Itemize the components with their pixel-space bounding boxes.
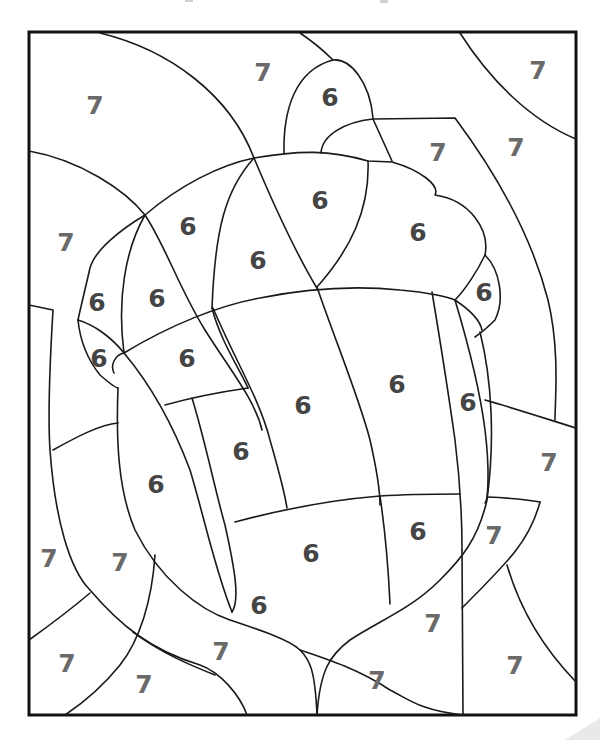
region-number-acorn-body: 6 [302,539,319,568]
region-number-background: 7 [424,609,441,638]
acorn-band-edge [165,388,248,405]
acorn-cap-rim [124,288,455,353]
acorn-color-by-number-sheet: 7767777666666666666676676776777777 [0,0,600,740]
region-number-background: 7 [429,138,446,167]
region-number-background: 7 [529,56,546,85]
page-curl-shadow [565,718,600,740]
region-number-acorn-body: 6 [250,591,267,620]
outline-line [373,119,392,161]
acorn-body-division [432,292,462,550]
acorn-cap-division [122,215,145,353]
acorn-body-outline [117,388,317,715]
region-number-background: 7 [86,91,103,120]
region-number-background: 7 [212,637,229,666]
outline-paths [29,33,576,715]
outline-arc [460,33,576,139]
region-number-acorn-cap: 6 [249,246,266,275]
region-number-background: 7 [540,448,557,477]
acorn-cap-curl [113,353,124,373]
region-number-background: 7 [111,548,128,577]
region-number-background: 7 [57,228,74,257]
outline-arc [29,151,262,430]
region-number-acorn-body: 6 [147,470,164,499]
acorn-body-division [213,308,287,508]
coloring-page: 7767777666666666666676676776777777 [0,0,600,740]
region-number-acorn-cap: 6 [409,218,426,247]
outline-line [53,423,118,450]
region-number-acorn-body: 6 [232,437,249,466]
region-number-acorn-cap: 6 [88,288,105,317]
outline-line [485,400,576,428]
acorn-cap-division [212,158,254,308]
region-number-acorn-cap: 6 [90,344,107,373]
outline-arc [100,33,318,290]
acorn-cap-division [317,161,368,287]
region-number-acorn-body: 6 [459,388,476,417]
outline-arc [462,502,540,608]
region-number-background: 7 [485,521,502,550]
header-text-fragment [380,0,388,3]
region-number-background: 7 [254,58,271,87]
outline-line [462,550,463,715]
region-number-acorn-cap: 6 [475,278,492,307]
region-number-acorn-cap: 6 [178,344,195,373]
region-number-acorn-stem: 6 [321,83,338,112]
outline-arc [29,593,90,640]
acorn-body-seam [487,497,540,502]
region-number-background: 7 [135,670,152,699]
region-number-background: 7 [40,544,57,573]
region-number-acorn-cap: 6 [179,212,196,241]
header-text-fragment [185,0,193,2]
region-number-acorn-body: 6 [294,391,311,420]
outline-line [300,33,333,60]
acorn-body-division [380,496,390,604]
region-number-acorn-body: 6 [388,370,405,399]
region-number-background: 7 [58,649,75,678]
region-number-acorn-cap: 6 [148,284,165,313]
acorn-body-outline [124,353,232,612]
region-number-background: 7 [506,651,523,680]
acorn-body-division [192,398,236,612]
region-number-background: 7 [368,666,385,695]
region-number-background: 7 [507,133,524,162]
acorn-body-division [317,287,380,505]
region-number-acorn-cap: 6 [311,186,328,215]
region-number-acorn-body: 6 [409,517,426,546]
